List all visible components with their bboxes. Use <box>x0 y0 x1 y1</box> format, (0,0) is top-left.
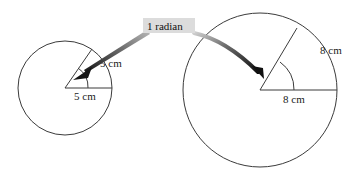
large-circle-angle-arc <box>280 62 294 90</box>
small-circle-group: 5 cm 5 cm <box>18 41 122 135</box>
callout-arrow-left <box>73 30 150 80</box>
callout-label-text: 1 radian <box>147 20 183 32</box>
radian-diagram: 5 cm 5 cm 8 cm 8 cm <box>0 0 361 181</box>
callout-arrow-right <box>194 33 264 79</box>
large-circle-slant-radius <box>260 28 297 90</box>
callout-arrow-right-head <box>252 66 264 79</box>
large-circle-slant-radius-label: 8 cm <box>320 44 342 56</box>
callout-1-radian: 1 radian <box>143 18 195 33</box>
callout-arrow-right-shaft <box>194 33 258 72</box>
small-circle-horizontal-radius-label: 5 cm <box>74 90 96 102</box>
radian-figure-canvas: 5 cm 5 cm 8 cm 8 cm <box>0 0 361 181</box>
large-circle-horizontal-radius-label: 8 cm <box>283 93 305 105</box>
